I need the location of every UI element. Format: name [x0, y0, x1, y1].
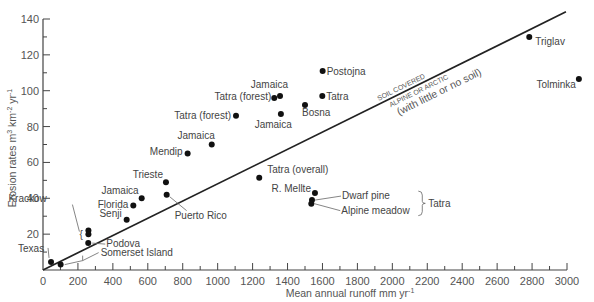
data-point	[233, 113, 239, 119]
point-label: Jamaica	[177, 130, 215, 141]
tatra-group-brace	[418, 191, 425, 216]
data-point	[308, 201, 314, 207]
point-label: Alpine meadow	[341, 205, 410, 216]
point-label: Triglav	[535, 36, 565, 47]
point-label: Jamaica	[255, 119, 293, 130]
y-tick-label: 140	[21, 13, 39, 25]
data-point	[124, 217, 130, 223]
threshold-line-layer	[43, 12, 566, 270]
leader-puerto-rico	[170, 197, 187, 211]
data-points	[48, 34, 582, 268]
point-label: Postojna	[327, 66, 366, 77]
leader-krackow	[72, 205, 79, 232]
point-label: Tatra (forest)	[174, 110, 231, 121]
point-label: Florida	[98, 199, 129, 210]
annotations: TatraSOIL COVEREDALPINE OR ARCTIC(with l…	[376, 65, 483, 215]
point-label: Jamaica	[101, 185, 139, 196]
data-point	[164, 192, 170, 198]
point-label: Tatra	[326, 91, 349, 102]
x-tick-label: 800	[174, 275, 192, 287]
x-tick-label: 0	[40, 275, 46, 287]
krackow-brace: {	[79, 229, 83, 240]
point-label: Podova	[106, 238, 140, 249]
x-tick-label: 1000	[205, 275, 229, 287]
point-label: Bosna	[302, 107, 331, 118]
x-tick-label: 2400	[450, 275, 474, 287]
data-point	[526, 34, 532, 40]
point-label: Dwarf pine	[342, 190, 390, 201]
leader-lines: {	[48, 196, 341, 265]
point-label: Puerto Rico	[175, 210, 228, 221]
x-tick-label: 600	[139, 275, 157, 287]
data-point	[271, 95, 277, 101]
erosion-runoff-chart: 0200400600800100012001400160018002000220…	[0, 0, 594, 302]
data-point	[139, 195, 145, 201]
x-tick-label: 2800	[520, 275, 544, 287]
leader-dwarf-pine	[315, 196, 341, 200]
leader-alpine-meadow	[314, 204, 340, 211]
x-tick-label: 1200	[240, 275, 264, 287]
y-tick-label: 120	[21, 49, 39, 61]
data-point	[85, 240, 91, 246]
data-point	[185, 150, 191, 156]
x-tick-label: 2000	[380, 275, 404, 287]
y-tick-label: 100	[21, 85, 39, 97]
point-label: Tatra (forest)	[215, 91, 272, 102]
x-tick-label: 3000	[555, 275, 579, 287]
x-tick-label: 400	[104, 275, 122, 287]
data-point	[320, 68, 326, 74]
data-point	[277, 93, 283, 99]
leader-texas	[48, 248, 49, 258]
point-label: Tatra (overall)	[267, 164, 328, 175]
data-point	[278, 111, 284, 117]
x-tick-label: 1600	[310, 275, 334, 287]
data-point	[163, 179, 169, 185]
leader-somerset	[65, 253, 99, 265]
x-axis-title: Mean annual runoff mm yr-1	[286, 287, 415, 299]
point-label: Texas	[18, 243, 44, 254]
x-tick-label: 1400	[275, 275, 299, 287]
x-tick-label: 2600	[485, 275, 509, 287]
point-label: Tolminka	[536, 79, 576, 90]
y-axis-title: Erosion rates m3 km-2 yr-1	[6, 89, 18, 208]
x-tick-label: 2200	[415, 275, 439, 287]
data-point	[85, 231, 91, 237]
point-label: R. Mellte	[272, 183, 312, 194]
data-point	[256, 175, 262, 181]
data-point	[319, 93, 325, 99]
data-point	[58, 262, 64, 268]
data-point	[48, 259, 54, 265]
threshold-line	[43, 12, 566, 270]
data-point	[576, 76, 582, 82]
point-label: Trieste	[133, 169, 164, 180]
axes	[43, 19, 567, 270]
y-tick-label: 60	[27, 156, 39, 168]
y-tick-label: 20	[27, 228, 39, 240]
data-point	[130, 202, 136, 208]
x-tick-label: 1800	[345, 275, 369, 287]
y-tick-label: 80	[27, 121, 39, 133]
point-label: Mendip	[150, 146, 183, 157]
tatra-group-label: Tatra	[428, 198, 451, 209]
point-label: Jamaica	[251, 79, 289, 90]
x-tick-label: 200	[69, 275, 87, 287]
data-point	[312, 190, 318, 196]
data-point	[209, 142, 215, 148]
